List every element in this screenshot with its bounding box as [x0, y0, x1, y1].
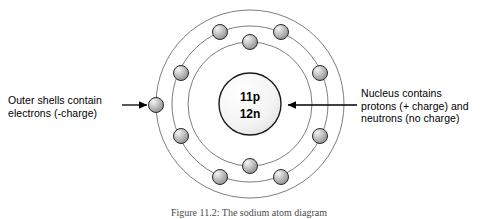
right-annotation-label: Nucleus containsprotons (+ charge) andne…	[361, 87, 469, 125]
figure-caption: Figure 11.2: The sodium atom diagram	[0, 207, 498, 218]
right-annotation-line1: Nucleus contains	[361, 87, 442, 99]
nucleus: 11p 12n	[219, 73, 281, 135]
electron	[213, 170, 228, 185]
right-annotation-line3: neutrons (no charge)	[361, 112, 459, 124]
right-annotation-line2: protons (+ charge) and	[361, 100, 469, 112]
electron	[313, 66, 328, 81]
diagram-canvas: 11p 12n Outer shells containelectron	[0, 0, 498, 219]
left-annotation-label: Outer shells containelectrons (-charge)	[8, 94, 102, 119]
electron	[174, 129, 189, 144]
electron	[243, 159, 258, 174]
nucleus-neutrons-label: 12n	[240, 107, 261, 121]
electron	[274, 170, 289, 185]
outer-shell-electrons	[149, 98, 164, 113]
electron	[274, 25, 289, 40]
nucleus-circle	[219, 73, 281, 135]
electron	[149, 98, 164, 113]
electron	[213, 25, 228, 40]
electron	[174, 66, 189, 81]
electron	[243, 35, 258, 50]
nucleus-protons-label: 11p	[240, 90, 260, 104]
left-annotation-line1: Outer shells contain	[8, 94, 102, 106]
left-annotation-line2: electrons (-charge)	[8, 107, 97, 119]
electron	[313, 129, 328, 144]
